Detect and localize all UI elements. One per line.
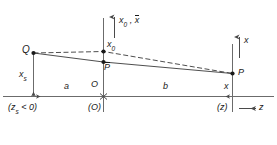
coordinate-note-right: (z) (217, 103, 228, 112)
axis-label-x-right: x (244, 36, 249, 45)
point-label-x0: x0 (107, 40, 115, 51)
coordinate-note-origin: (O) (88, 103, 101, 112)
point-marker-x0 (101, 49, 105, 53)
origin-label: O (91, 80, 98, 89)
ray-diagram-figure: x0 , x x z Q x0 P P O xs a b x (zs < 0) … (0, 0, 277, 145)
segment-label-b: b (163, 82, 168, 91)
axis-label-z: z (259, 103, 264, 112)
segment-label-xs: xs (19, 70, 27, 81)
point-label-p: P (238, 68, 244, 77)
point-label-pbar: P (104, 63, 110, 72)
point-marker-p (230, 71, 234, 75)
segment-label-x-right: x (224, 82, 229, 91)
segment-label-a: a (64, 82, 69, 91)
coordinate-note-left: (zs < 0) (8, 103, 37, 114)
point-marker-q (31, 51, 35, 55)
axis-label-x0-xbar: x0 , x (119, 16, 139, 27)
dashed-ray (34, 52, 233, 74)
point-label-q: Q (22, 45, 30, 55)
